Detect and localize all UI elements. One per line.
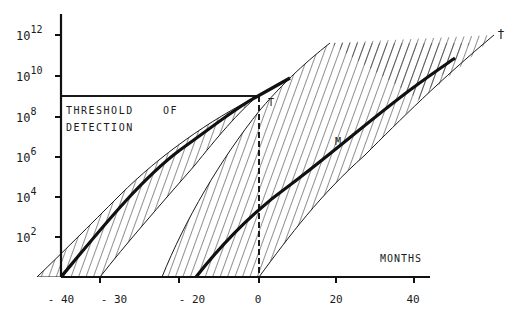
y-label-1e8: 108	[16, 106, 36, 125]
y-label-1e2: 102	[16, 226, 36, 245]
threshold-text-line2: DETECTION	[66, 122, 134, 133]
x-label-minus20: - 20	[179, 293, 206, 306]
death-marker-icon: †	[497, 26, 505, 41]
threshold-annotation: THRESHOLD OF DETECTION	[66, 105, 178, 133]
y-label-1e10: 1010	[16, 65, 43, 84]
y-axis-labels: 1012 1010 108 106 104 102	[16, 24, 43, 245]
x-axis-labels: - 40 - 30 - 20 0 20 40	[48, 293, 420, 306]
label-M: M	[335, 136, 341, 147]
x-label-minus40: - 40	[48, 293, 75, 306]
x-label-0: 0	[255, 293, 262, 306]
threshold-text-line1: THRESHOLD	[66, 105, 134, 116]
label-T: T	[268, 97, 274, 108]
y-label-1e4: 104	[16, 186, 36, 205]
x-label-40: 40	[406, 293, 419, 306]
growth-chart: 1012 1010 108 106 104 102 - 40 - 30 - 20…	[0, 0, 519, 315]
threshold-text-of: OF	[163, 105, 178, 116]
x-label-minus30: - 30	[101, 293, 128, 306]
x-label-20: 20	[329, 293, 342, 306]
y-label-1e12: 1012	[16, 24, 43, 43]
y-label-1e6: 106	[16, 146, 36, 165]
x-axis-title: MONTHS	[380, 253, 422, 264]
